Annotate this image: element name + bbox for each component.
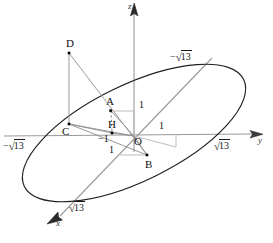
point-D <box>68 52 71 55</box>
point-label-A: A <box>106 96 114 107</box>
tick-label-z-one: 1 <box>139 100 144 110</box>
radical-label-x-negative: −√13 <box>170 52 192 63</box>
radicand-value: 13 <box>74 201 85 213</box>
radicand-value: 13 <box>14 139 25 151</box>
point-B <box>146 154 149 157</box>
radical-label-y-positive: √13 <box>214 141 230 152</box>
axis-label-y: y <box>258 136 262 145</box>
point-label-H: H <box>108 119 116 130</box>
tick-label-y-minus-one: −1 <box>98 134 109 144</box>
axis-label-x: x <box>56 219 60 228</box>
radicand-value: 13 <box>219 139 230 151</box>
point-A <box>109 109 112 112</box>
radical-label-y-negative: −√13 <box>3 141 25 152</box>
axis-label-z: z <box>128 2 132 11</box>
radical-label-x-positive: √13 <box>69 203 85 214</box>
x-axis-arrowhead <box>47 212 63 224</box>
point-label-C: C <box>62 126 69 137</box>
point-label-O: O <box>134 136 142 147</box>
segment-C-H <box>69 124 112 133</box>
radicand-value: 13 <box>181 50 192 62</box>
point-H <box>111 132 114 135</box>
figure-canvas <box>0 0 273 243</box>
coordinate-geometry-figure: A B C D H O 1 1 −1 1 −√13 √13 −√13 √13 z… <box>0 0 273 243</box>
tick-label-x-one: 1 <box>109 145 114 155</box>
construction-lines <box>69 53 176 155</box>
point-label-D: D <box>66 38 74 49</box>
tick-label-y-one: 1 <box>159 121 164 131</box>
point-label-B: B <box>145 159 152 170</box>
